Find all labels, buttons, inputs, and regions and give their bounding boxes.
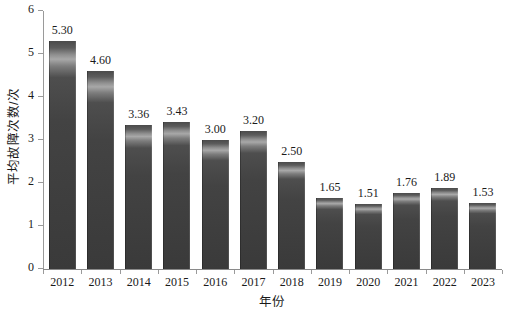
y-tick-label: 6 (28, 2, 34, 17)
y-tick: 3 (38, 139, 43, 140)
x-tick (349, 270, 350, 274)
y-tick: 0 (38, 268, 43, 269)
bar (163, 122, 190, 269)
x-tick (234, 270, 235, 274)
bar-group: 3.002016 (202, 11, 229, 269)
bar-value-label: 3.43 (149, 104, 204, 119)
x-category-label: 2023 (455, 275, 510, 290)
bar-value-label: 1.89 (417, 170, 472, 185)
bar-group: 1.512020 (355, 11, 382, 269)
bar (49, 41, 76, 269)
bar-group: 1.652019 (316, 11, 343, 269)
bar (469, 203, 496, 269)
x-tick (81, 270, 82, 274)
bar-chart: 平均故障次数/次 0123456 5.3020124.6020133.36201… (0, 0, 530, 316)
bar (278, 162, 305, 270)
bar (316, 198, 343, 269)
bar (202, 140, 229, 269)
bar-group: 1.762021 (393, 11, 420, 269)
bar-group: 1.532023 (469, 11, 496, 269)
y-tick-label: 5 (28, 45, 34, 60)
bar-group: 3.202017 (240, 11, 267, 269)
bar (125, 125, 152, 269)
bar-group: 5.302012 (49, 11, 76, 269)
y-axis-title-text: 平均故障次数/次 (4, 87, 23, 185)
bar-group: 4.602013 (87, 11, 114, 269)
plot-area: 0123456 5.3020124.6020133.3620143.432015… (43, 11, 502, 270)
x-tick (464, 270, 465, 274)
bar (393, 193, 420, 269)
bar-group: 2.502018 (278, 11, 305, 269)
bar (240, 131, 267, 269)
y-tick-label: 3 (28, 131, 34, 146)
bar-group: 1.892022 (431, 11, 458, 269)
y-tick: 2 (38, 182, 43, 183)
bar (87, 71, 114, 269)
y-tick: 5 (38, 53, 43, 54)
bar (355, 204, 382, 269)
y-tick-label: 1 (28, 217, 34, 232)
x-tick (196, 270, 197, 274)
x-tick (120, 270, 121, 274)
y-axis-title: 平均故障次数/次 (0, 0, 26, 272)
bar-value-label: 4.60 (73, 53, 128, 68)
y-tick-label: 4 (28, 88, 34, 103)
bar-value-label: 2.50 (264, 144, 319, 159)
x-axis-title: 年份 (43, 291, 502, 310)
x-tick (426, 270, 427, 274)
y-axis-line (43, 11, 44, 270)
y-tick: 4 (38, 96, 43, 97)
bar-value-label: 5.30 (35, 23, 90, 38)
bar-value-label: 3.20 (226, 113, 281, 128)
y-tick: 1 (38, 225, 43, 226)
bar-value-label: 1.53 (455, 185, 510, 200)
x-tick (311, 270, 312, 274)
x-tick (158, 270, 159, 274)
bar (431, 188, 458, 269)
y-tick-label: 2 (28, 174, 34, 189)
x-tick (43, 270, 44, 274)
y-tick: 6 (38, 10, 43, 11)
bar-group: 3.432015 (163, 11, 190, 269)
y-tick-label: 0 (28, 260, 34, 275)
bar-group: 3.362014 (125, 11, 152, 269)
x-tick (273, 270, 274, 274)
x-tick (387, 270, 388, 274)
x-tick (502, 270, 503, 274)
